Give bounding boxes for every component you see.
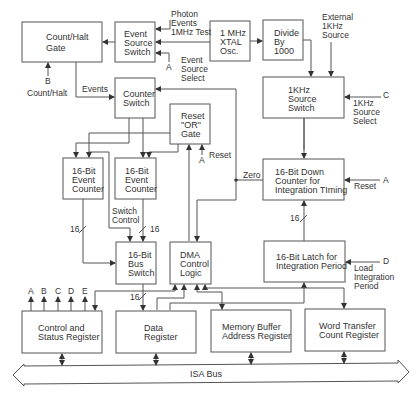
wire (197, 285, 222, 309)
memory-buffer-register-block: Memory Buffer Address Register (211, 310, 291, 352)
dma-control-logic-block: DMA Control Logic (170, 242, 211, 284)
wire (156, 53, 169, 62)
events-label: Events (82, 84, 108, 94)
svg-text:Select: Select (353, 116, 377, 126)
block-label: Integration Period (276, 261, 347, 271)
bus-width-label: 16 (290, 213, 300, 223)
event-counter-2-block: 16-Bit Event Counter (115, 158, 157, 199)
pin-a-label: A (199, 155, 205, 165)
block-label: Switch (128, 268, 155, 278)
latch-block: 16-Bit Latch for Integration Period (264, 241, 347, 282)
svg-text:B: B (41, 286, 47, 296)
wire (83, 199, 115, 263)
bus-width-label: 16 (150, 224, 160, 234)
pin-d-label: D (383, 256, 389, 266)
svg-text:A: A (28, 286, 34, 296)
1khz-source-select-label: 1KHz Source Select (353, 98, 380, 126)
wire (149, 144, 178, 157)
wire (303, 40, 311, 76)
switch-control-label: Switch Control (112, 206, 140, 225)
external-1khz-label: External 1KHz Source (322, 12, 353, 40)
wire (156, 20, 170, 29)
block-label: Count/Halt (46, 32, 89, 42)
load-integration-label: Load Integration Period (354, 263, 394, 291)
bus-switch-block: 16-Bit Bus Switch (116, 242, 156, 284)
svg-text:C: C (55, 286, 61, 296)
block-label: Osc. (220, 46, 239, 56)
block-label: Register (144, 332, 178, 342)
block-label: Counter (72, 184, 104, 194)
event-source-select-label: Event Source Select (181, 55, 208, 83)
svg-text:Source: Source (322, 30, 349, 40)
svg-text:D: D (68, 286, 74, 296)
1khz-source-switch-block: 1KHz Source Switch (263, 77, 344, 118)
block-label: Gate (181, 129, 201, 139)
svg-text:Period: Period (354, 281, 379, 291)
bus-width-label: 16 (70, 224, 80, 234)
zero-label: Zero (243, 170, 261, 180)
wire (205, 285, 344, 308)
counter-switch-block: Counter Switch (115, 78, 155, 118)
pin-a-label: A (166, 62, 172, 72)
word-transfer-register-block: Word Transfer Count Register (305, 309, 385, 351)
isa-bus: ISA Bus (13, 360, 409, 386)
svg-text:Control: Control (112, 215, 140, 225)
block-label: 1000 (274, 46, 294, 56)
xtal-osc-block: 1 MHz XTAL Osc. (210, 21, 250, 61)
block-label: Logic (180, 268, 202, 278)
pin-c-label: C (383, 90, 389, 100)
block-diagram: Count/Halt Gate Event Source Switch 1 MH… (0, 0, 419, 400)
svg-text:E: E (82, 286, 88, 296)
photon-events-label: Photon Events 1MHz Test (171, 9, 212, 37)
wire (197, 180, 236, 241)
block-label: Status Register (38, 332, 100, 342)
reset-or-gate-block: Reset "OR" Gate (170, 104, 210, 144)
svg-text:Select: Select (181, 73, 205, 83)
block-label: Gate (46, 43, 66, 53)
block-label: Address Register (222, 331, 291, 341)
wire (76, 118, 129, 157)
control-status-register-block: Control and Status Register (22, 311, 102, 353)
count-halt-gate-block: Count/Halt Gate (22, 22, 102, 62)
block-label: Count Register (319, 330, 379, 340)
block-label: Integration TIming (275, 185, 347, 195)
divide-by-1000-block: Divide By 1000 (263, 20, 303, 60)
count-halt-label: Count/Halt (27, 88, 68, 98)
data-register-block: Data Register (116, 311, 196, 353)
status-output-labels: A B C D E (28, 286, 88, 296)
block-label: Switch (123, 98, 150, 108)
down-counter-block: 16-Bit Down Counter for Integration TImi… (263, 159, 347, 200)
pin-b-label: B (45, 76, 51, 86)
block-label: Switch (124, 47, 151, 57)
pin-a-label: A (383, 175, 389, 185)
block-label: Switch (288, 103, 315, 113)
isa-bus-label: ISA Bus (190, 369, 223, 379)
wire (170, 283, 304, 310)
event-source-switch-block: Event Source Switch (115, 22, 155, 62)
reset-label: Reset (354, 181, 377, 191)
bus-width-label: 16 (130, 292, 140, 302)
svg-text:1MHz Test: 1MHz Test (171, 27, 212, 37)
event-counter-1-block: 16-Bit Event Counter (63, 158, 104, 199)
block-label: Counter (125, 184, 157, 194)
reset-label: Reset (209, 150, 232, 160)
